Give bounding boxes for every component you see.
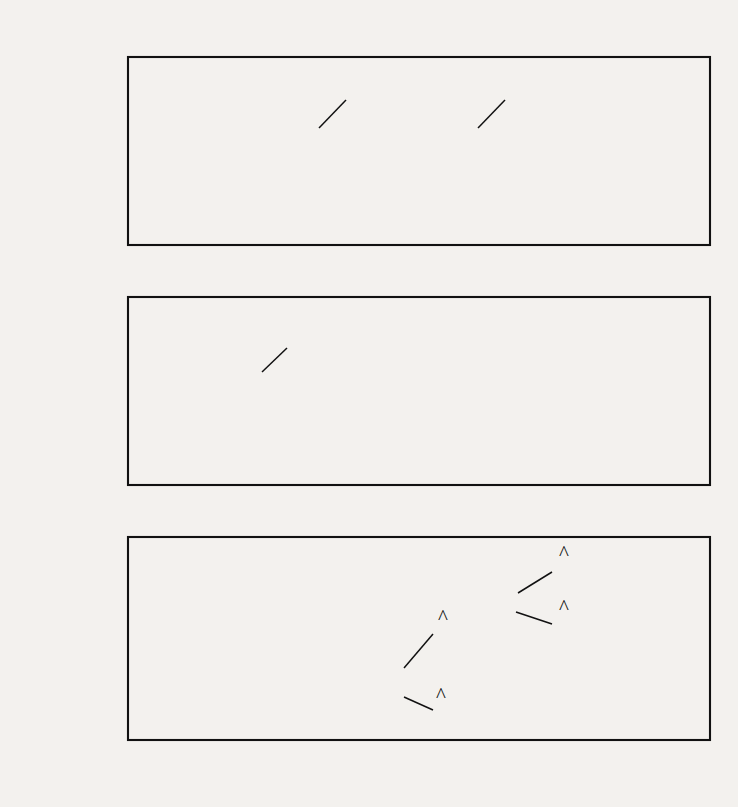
top-panel-frame xyxy=(128,57,710,245)
bottom-panel-frame xyxy=(128,537,710,740)
annotation-m0-leader xyxy=(518,572,552,593)
annotation-cf-hat-icon: ^ xyxy=(438,605,448,629)
annotation-j: ^ xyxy=(0,0,446,710)
annotation-j-hat-icon: ^ xyxy=(436,683,446,707)
annotation-cf: ^ xyxy=(0,0,448,668)
annotation-mr1-leader xyxy=(516,612,552,624)
annotation-phi-meas-leader xyxy=(319,100,346,128)
annotation-error-leader xyxy=(262,348,287,372)
panel-estimation-error xyxy=(34,297,710,487)
annotation-j-leader xyxy=(404,697,433,710)
figure-svg: ^ ^ ^ xyxy=(0,0,738,807)
annotation-phi-mod-leader xyxy=(478,100,505,128)
annotation-phi-meas xyxy=(319,100,346,128)
panel-estimated-parameters: ^ ^ ^ xyxy=(0,0,710,740)
annotation-cf-leader xyxy=(404,634,433,668)
middle-panel-frame xyxy=(128,297,710,485)
annotation-mr1: ^ xyxy=(0,0,569,624)
figure-root: ^ ^ ^ xyxy=(0,0,738,807)
panel-angular-acceleration xyxy=(34,57,710,245)
annotation-m0-hat-icon: ^ xyxy=(559,541,569,565)
annotation-error xyxy=(262,348,287,372)
annotation-phi-mod xyxy=(478,100,505,128)
annotation-mr1-hat-icon: ^ xyxy=(559,595,569,619)
